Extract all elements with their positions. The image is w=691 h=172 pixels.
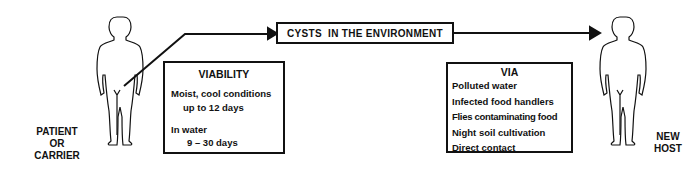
human-figure-icon-patient [97, 17, 143, 145]
human-figure-icon-new-host [600, 17, 646, 145]
via-box: VIA Polluted water Infected food handler… [446, 62, 573, 153]
environment-box-label: CYSTS IN THE ENVIRONMENT [287, 28, 443, 39]
via-title: VIA [452, 66, 567, 78]
via-item: Polluted water [452, 78, 567, 94]
arrow-right-icon-to-new-host [454, 27, 600, 39]
via-item: Infected food handlers [452, 94, 567, 110]
label-line: OR [27, 138, 87, 150]
cysts-in-environment-box: CYSTS IN THE ENVIRONMENT [276, 22, 454, 44]
label-line: CARRIER [27, 150, 87, 162]
viability-box: VIABILITY Moist, cool conditions up to 1… [163, 61, 285, 154]
new-host-label: NEW HOST [648, 131, 688, 155]
viability-line: In water [171, 124, 277, 136]
viability-line: 9 – 30 days [171, 136, 277, 150]
via-item: Flies contaminating food [452, 109, 567, 125]
label-line: NEW [648, 131, 688, 143]
label-line: HOST [648, 143, 688, 155]
patient-or-carrier-label: PATIENT OR CARRIER [27, 126, 87, 162]
via-item: Night soil cultivation [452, 125, 567, 141]
viability-line: Moist, cool conditions [171, 86, 277, 102]
viability-title: VIABILITY [171, 68, 277, 80]
via-item: Direct contact [452, 140, 567, 156]
viability-line: up to 12 days [171, 102, 277, 114]
label-line: PATIENT [27, 126, 87, 138]
